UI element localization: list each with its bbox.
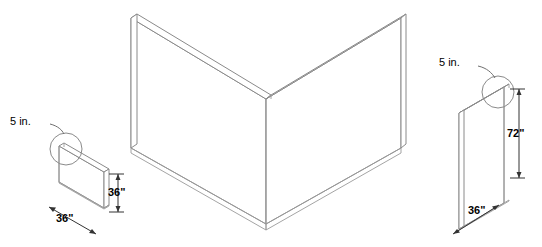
center-left-wing-left-edge — [131, 14, 137, 148]
panel-assembly-diagram: 5 in. 36" 36" 5 in. 72" 36" — [0, 0, 542, 247]
diagram-canvas — [0, 0, 542, 247]
right-panel-width-label: 36" — [468, 204, 485, 216]
center-left-wing-face — [131, 18, 266, 224]
right-panel-height-label: 72" — [507, 127, 524, 139]
center-v-panel-assembly — [131, 14, 406, 230]
center-right-wing-face — [266, 18, 401, 224]
left-panel-height-label: 36" — [108, 186, 125, 198]
left-panel-width-label: 36" — [56, 212, 73, 224]
left-square-panel — [59, 143, 109, 209]
left-thickness-callout-label: 5 in. — [10, 115, 31, 127]
right-panel-left-edge — [459, 110, 464, 229]
right-thickness-callout-label: 5 in. — [439, 56, 460, 68]
left-thickness-leader-line — [50, 124, 64, 134]
right-thickness-leader-line — [478, 66, 495, 78]
center-right-wing-right-edge — [401, 14, 406, 148]
